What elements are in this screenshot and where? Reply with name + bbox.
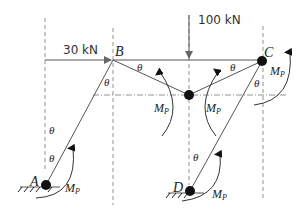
member-b-hinge (113, 60, 189, 95)
plastic-hinge-c (257, 56, 267, 66)
plastic-hinge-mid (184, 90, 194, 100)
theta-d: θ (193, 151, 199, 163)
plastic-hinge-a (41, 180, 51, 190)
moment-label-a: MP (64, 181, 80, 196)
members (46, 60, 262, 191)
load-100kn: 100 kN (189, 13, 241, 58)
theta-a-upper: θ (49, 124, 55, 136)
node-label-b: B (115, 44, 124, 59)
frame-mechanism-diagram: 30 kN 100 kN B C A D θ θ θ θ θ θ θ MP MP… (0, 0, 307, 214)
member-cd (190, 61, 262, 191)
theta-c-down: θ (254, 77, 260, 89)
fixed-support-a (18, 187, 60, 192)
plastic-hinge-d (185, 186, 195, 196)
member-hinge-c (189, 61, 262, 95)
theta-b-left: θ (104, 76, 110, 88)
vertical-load-label: 100 kN (198, 13, 241, 27)
moment-label-d: MP (211, 187, 227, 202)
horizontal-load-label: 30 kN (63, 43, 98, 57)
moment-label-hinge-right: MP (205, 101, 221, 116)
member-ab (46, 60, 113, 185)
load-30kn: 30 kN (45, 43, 111, 60)
theta-c-left: θ (230, 61, 236, 73)
moment-label-hinge-left: MP (153, 101, 169, 116)
moment-label-c: MP (269, 64, 285, 79)
moment-arrows (36, 52, 290, 201)
theta-a-lower: θ (49, 152, 55, 164)
theta-b-right: θ (137, 61, 143, 73)
